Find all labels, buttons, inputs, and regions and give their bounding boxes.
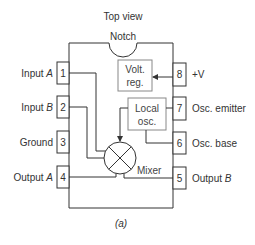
pin-1-label: Input A — [21, 68, 53, 79]
pin-2: 2 Input B — [21, 96, 69, 118]
pin-5: 5 Output B — [173, 167, 232, 189]
local-osc-line1: Local — [135, 103, 159, 114]
pin2-to-mixer-wire — [69, 107, 104, 158]
volt-reg-line1: Volt. — [125, 64, 144, 75]
pin-1-number: 1 — [60, 68, 66, 79]
pin-3-number: 3 — [60, 137, 66, 148]
pin-4-label: Output A — [14, 172, 54, 183]
pin-4-number: 4 — [60, 172, 66, 183]
pin-8: 8 +V — [173, 63, 205, 86]
title-top-view: Top view — [104, 11, 144, 22]
pin-6-number: 6 — [177, 138, 183, 149]
pin-4: 4 Output A — [14, 166, 69, 188]
pin-3: 3 Ground — [20, 131, 69, 153]
pin-2-number: 2 — [60, 102, 66, 113]
notch-label: Notch — [110, 31, 136, 42]
pin-7-number: 7 — [177, 103, 183, 114]
pin-5-number: 5 — [177, 173, 183, 184]
localosc-to-pin6-wire — [146, 130, 173, 143]
voltage-regulator-block: Volt. reg. — [118, 60, 152, 91]
pin-8-number: 8 — [177, 69, 183, 80]
pin-7-label: Osc. emitter — [192, 103, 247, 114]
pin-1: 1 Input A — [21, 62, 69, 84]
pin-6-label: Osc. base — [192, 138, 237, 149]
local-osc-line2: osc. — [138, 116, 156, 127]
volt-reg-line2: reg. — [126, 77, 143, 88]
pin-6: 6 Osc. base — [173, 132, 237, 154]
ic-pinout-diagram: Top view Notch 1 Input A 2 Input B 3 Gro… — [0, 0, 255, 245]
mixer-label: Mixer — [137, 165, 162, 176]
pin-5-label: Output B — [192, 173, 232, 184]
pin-8-label: +V — [192, 69, 205, 80]
mixer-symbol — [104, 142, 136, 174]
pin-7: 7 Osc. emitter — [173, 97, 247, 120]
pin-3-label: Ground — [20, 137, 53, 148]
mixer-to-pin4-wire — [69, 174, 116, 178]
local-oscillator-block: Local osc. — [128, 98, 166, 130]
figure-caption: (a) — [115, 218, 127, 229]
pin-2-label: Input B — [21, 102, 53, 113]
localosc-to-mixer-wire — [120, 108, 128, 141]
